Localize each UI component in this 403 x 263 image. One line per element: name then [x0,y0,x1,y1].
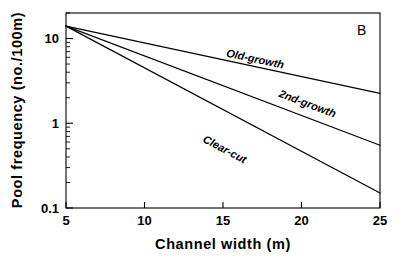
panel-label-b: B [357,22,366,38]
figure-container: 510152025 0.1110 Old-growth2nd-growthCle… [0,0,403,263]
y-tick-label: 10 [45,31,59,46]
y-axis-title: Pool frequency (no./100m) [9,12,25,208]
pool-frequency-chart: 510152025 0.1110 Old-growth2nd-growthCle… [0,0,403,263]
x-tick-label: 25 [373,213,387,228]
x-tick-label: 20 [294,213,308,228]
series-line-old-growth [66,26,380,93]
y-axis-tick-labels: 0.1110 [41,31,59,215]
series-label-clear-cut: Clear-cut [201,133,250,167]
series-line-2nd-growth [66,26,380,145]
y-tick-label: 1 [52,116,59,131]
x-tick-label: 5 [62,213,69,228]
series-inline-labels: Old-growth2nd-growthClear-cut [201,47,338,167]
y-tick-label: 0.1 [41,201,59,216]
x-axis-tick-labels: 510152025 [62,213,387,228]
x-axis-title: Channel width (m) [155,236,291,252]
x-tick-label: 10 [137,213,151,228]
x-axis-ticks [66,202,380,208]
x-tick-label: 15 [216,213,230,228]
series-label-2nd-growth: 2nd-growth [277,87,338,120]
